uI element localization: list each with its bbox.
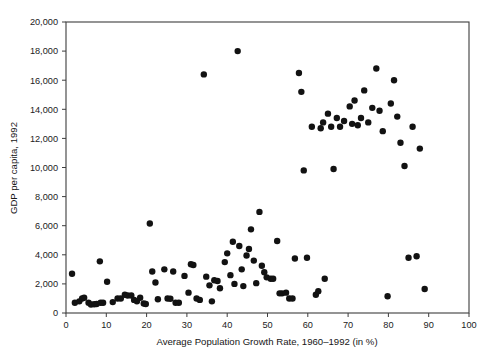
y-axis-ticks: 02,0004,0006,0008,00010,00012,00014,0001… (30, 17, 66, 318)
scatter-point (376, 108, 382, 114)
scatter-point (147, 220, 153, 226)
scatter-point (246, 246, 252, 252)
scatter-point (206, 282, 212, 288)
scatter-point (149, 268, 155, 274)
x-tick-label: 70 (343, 320, 353, 330)
scatter-point (380, 128, 386, 134)
scatter-point (351, 97, 357, 103)
scatter-point (243, 252, 249, 258)
scatter-point (355, 122, 361, 128)
plot-area-border (66, 22, 469, 313)
y-tick-label: 12,000 (30, 134, 58, 144)
scatter-point (401, 163, 407, 169)
scatter-point (391, 77, 397, 83)
scatter-point (373, 65, 379, 71)
scatter-plot-figure: 02,0004,0006,0008,00010,00012,00014,0001… (0, 0, 495, 357)
scatter-point (421, 286, 427, 292)
scatter-point (341, 118, 347, 124)
scatter-point (296, 70, 302, 76)
scatter-point (358, 115, 364, 121)
x-tick-label: 20 (141, 320, 151, 330)
y-tick-label: 14,000 (30, 105, 58, 115)
scatter-point (203, 273, 209, 279)
scatter-point (298, 89, 304, 95)
scatter-point (231, 281, 237, 287)
scatter-point (384, 293, 390, 299)
y-tick-label: 20,000 (30, 17, 58, 27)
scatter-point (309, 124, 315, 130)
y-axis-title: GDP per capita, 1992 (8, 122, 19, 214)
scatter-point (81, 295, 87, 301)
scatter-point (417, 145, 423, 151)
y-tick-label: 16,000 (30, 76, 58, 86)
scatter-point (361, 87, 367, 93)
scatter-point (413, 253, 419, 259)
scatter-point (152, 279, 158, 285)
chart-page: 02,0004,0006,0008,00010,00012,00014,0001… (0, 0, 495, 357)
plot-frame (66, 22, 469, 313)
y-tick-label: 6,000 (35, 221, 58, 231)
scatter-point (104, 279, 110, 285)
scatter-point (161, 266, 167, 272)
scatter-point (315, 288, 321, 294)
x-tick-label: 90 (424, 320, 434, 330)
scatter-point (190, 262, 196, 268)
scatter-point (143, 301, 149, 307)
scatter-point (256, 209, 262, 215)
scatter-point (270, 276, 276, 282)
scatter-point (304, 255, 310, 261)
scatter-point (201, 71, 207, 77)
y-tick-label: 10,000 (30, 163, 58, 173)
scatter-point (69, 271, 75, 277)
scatter-point (337, 124, 343, 130)
scatter-point (227, 272, 233, 278)
scatter-point (292, 255, 298, 261)
scatter-point (197, 297, 203, 303)
scatter-point (167, 296, 173, 302)
scatter-point (301, 167, 307, 173)
scatter-point (320, 119, 326, 125)
y-tick-label: 0 (53, 308, 58, 318)
scatter-point (176, 300, 182, 306)
scatter-point (222, 259, 228, 265)
scatter-point (253, 280, 259, 286)
scatter-point (240, 283, 246, 289)
scatter-point (248, 226, 254, 232)
x-tick-label: 0 (63, 320, 68, 330)
x-tick-label: 50 (262, 320, 272, 330)
scatter-point (155, 296, 161, 302)
y-tick-label: 8,000 (35, 192, 58, 202)
scatter-point (185, 289, 191, 295)
scatter-point (137, 295, 143, 301)
x-axis-title: Average Population Growth Rate, 1960–199… (156, 336, 377, 347)
scatter-point (405, 255, 411, 261)
scatter-point (347, 103, 353, 109)
scatter-point (325, 110, 331, 116)
scatter-point (230, 239, 236, 245)
scatter-point (334, 115, 340, 121)
scatter-point (388, 100, 394, 106)
scatter-point (251, 257, 257, 263)
scatter-point (322, 276, 328, 282)
scatter-point (365, 119, 371, 125)
scatter-point (100, 300, 106, 306)
x-tick-label: 80 (383, 320, 393, 330)
scatter-point (239, 266, 245, 272)
scatter-point (234, 48, 240, 54)
scatter-point (181, 273, 187, 279)
y-tick-label: 18,000 (30, 46, 58, 56)
x-tick-label: 10 (101, 320, 111, 330)
scatter-point (409, 124, 415, 130)
scatter-point (317, 125, 323, 131)
scatter-point (236, 243, 242, 249)
scatter-point (209, 298, 215, 304)
y-tick-label: 4,000 (35, 250, 58, 260)
scatter-point (330, 166, 336, 172)
y-tick-label: 2,000 (35, 279, 58, 289)
scatter-point (274, 238, 280, 244)
scatter-point (397, 140, 403, 146)
scatter-point (217, 285, 223, 291)
x-tick-label: 30 (182, 320, 192, 330)
scatter-point (394, 113, 400, 119)
scatter-point (328, 124, 334, 130)
